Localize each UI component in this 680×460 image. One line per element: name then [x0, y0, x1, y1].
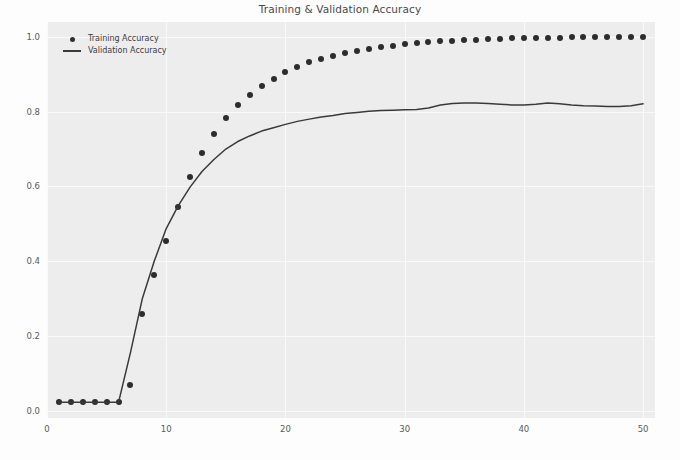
y-tick-label: 0.4	[0, 256, 40, 266]
x-tick-label: 0	[27, 424, 67, 434]
dot-marker-icon	[60, 37, 84, 42]
chart-legend: Training Accuracy Validation Accuracy	[56, 30, 173, 60]
legend-label-validation: Validation Accuracy	[88, 45, 167, 57]
y-tick-label: 1.0	[0, 32, 40, 42]
chart-title: Training & Validation Accuracy	[0, 3, 680, 15]
y-tick-label: 0.8	[0, 107, 40, 117]
validation-accuracy-line	[47, 22, 655, 418]
chart-figure: the training curve rises and the validat…	[0, 0, 680, 460]
x-tick-label: 10	[146, 424, 186, 434]
x-tick-label: 40	[504, 424, 544, 434]
y-tick-label: 0.6	[0, 181, 40, 191]
x-tick-label: 20	[265, 424, 305, 434]
legend-item-validation: Validation Accuracy	[60, 45, 167, 57]
legend-item-training: Training Accuracy	[60, 33, 167, 45]
legend-label-training: Training Accuracy	[88, 33, 159, 45]
plot-area	[47, 22, 655, 418]
y-tick-label: 0.0	[0, 406, 40, 416]
line-marker-icon	[60, 50, 84, 52]
y-tick-label: 0.2	[0, 331, 40, 341]
x-tick-label: 30	[385, 424, 425, 434]
x-tick-label: 50	[623, 424, 663, 434]
